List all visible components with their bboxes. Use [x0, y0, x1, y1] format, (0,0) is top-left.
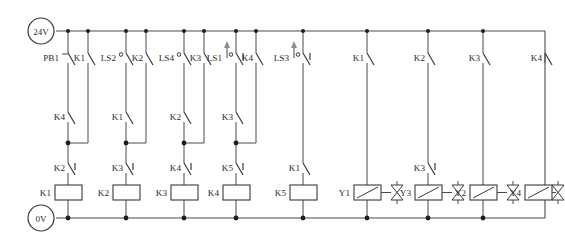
junction-dot	[426, 216, 431, 221]
junction-dot	[124, 216, 129, 221]
junction-dot	[66, 141, 71, 146]
junction-dot	[301, 29, 305, 33]
coil-k5-label: K5	[275, 188, 287, 198]
contact-k2-rung1[interactable]: K2	[54, 163, 75, 175]
junction-dot	[365, 29, 369, 33]
contact-k4-rung9[interactable]: K4	[531, 53, 552, 65]
contact-k4-rung9-label: K4	[531, 53, 543, 63]
contact-pb1-label: PB1	[43, 53, 59, 63]
contact-ls2-label: LS2	[101, 53, 117, 63]
contact-ls4-label: LS4	[159, 53, 175, 63]
terminal-24v: 24V	[28, 18, 54, 44]
junction-dot	[234, 216, 239, 221]
rung-6-group: K1 Y1	[339, 29, 403, 220]
junction-dot	[66, 216, 71, 221]
junction-dot	[182, 216, 187, 221]
coil-k1[interactable]: K1	[40, 185, 82, 200]
contact-k2-rung2-label: K2	[132, 53, 144, 63]
contact-k1-rung2[interactable]: K1	[112, 112, 133, 124]
junction-dot	[144, 29, 148, 33]
contact-k2-rung3-label: K2	[170, 112, 182, 122]
contact-k4-rung1-label: K4	[54, 112, 66, 122]
coil-k4-label: K4	[208, 188, 220, 198]
junction-dot	[481, 29, 485, 33]
contact-k5-rung4[interactable]: K5	[222, 163, 243, 175]
rung-3-group: LS4 K3 K2 K4 K3	[156, 29, 211, 220]
contact-k4-rung3-label: K4	[170, 163, 182, 173]
contact-k1-rung6-label: K1	[353, 53, 365, 63]
coil-k4[interactable]: K4	[208, 185, 250, 200]
solenoid-y4[interactable]: Y4	[510, 185, 552, 200]
terminal-0v-label: 0V	[36, 214, 48, 224]
contact-k4-rung1[interactable]: K4	[54, 112, 75, 124]
solenoid-y3-label: Y3	[400, 188, 412, 198]
contact-ls2[interactable]: LS2	[101, 53, 133, 65]
contact-k2-rung1-label: K2	[54, 163, 66, 173]
solenoid-y2[interactable]: Y2	[455, 185, 497, 200]
contact-k3-rung7-label: K3	[414, 163, 426, 173]
contact-k1-rung6[interactable]: K1	[353, 53, 374, 65]
junction-dot	[182, 141, 187, 146]
contact-pb1[interactable]: PB1	[43, 53, 75, 65]
contact-ls4[interactable]: LS4	[159, 53, 191, 65]
junction-dot	[365, 216, 370, 221]
contact-k3-rung3-label: K3	[190, 53, 202, 63]
rung-2-group: LS2 K2 K1 K3 K2	[98, 29, 153, 220]
contact-k1-rung1[interactable]: K1	[74, 53, 95, 65]
junction-dot	[182, 29, 186, 33]
terminal-24v-label: 24V	[33, 27, 49, 37]
junction-dot	[66, 29, 70, 33]
contact-k2-rung7[interactable]: K2	[414, 53, 435, 65]
solenoid-y1[interactable]: Y1	[339, 185, 381, 200]
coil-k2[interactable]: K2	[98, 185, 140, 200]
contact-k1-rung5[interactable]: K1	[289, 163, 310, 175]
junction-dot	[124, 141, 129, 146]
solenoid-y2-label: Y2	[455, 188, 467, 198]
junction-dot	[426, 29, 430, 33]
contact-k2-rung3[interactable]: K2	[170, 112, 191, 124]
contact-k2-rung2[interactable]: K2	[132, 53, 153, 65]
junction-dot	[124, 29, 128, 33]
terminal-0v: 0V	[28, 205, 54, 231]
indicator-lamp-last	[552, 181, 564, 204]
coil-k1-label: K1	[40, 188, 52, 198]
contact-ls3-label: LS3	[274, 53, 290, 63]
contact-k4-rung4[interactable]: K4	[242, 53, 263, 65]
rung-1-group: PB1 K1 K4 K2 K1	[40, 29, 95, 220]
contact-k2-rung7-label: K2	[414, 53, 426, 63]
contact-ls3[interactable]: LS3	[274, 41, 310, 65]
rung-4-group: LS1 K4 K3 K5 K4	[207, 29, 263, 220]
contact-k3-rung8[interactable]: K3	[469, 53, 490, 65]
junction-dot	[254, 29, 258, 33]
solenoid-y4-label: Y4	[510, 188, 522, 198]
junction-dot	[301, 216, 306, 221]
contact-k5-rung4-label: K5	[222, 163, 234, 173]
ladder-diagram-canvas: 24V 0V PB1 K1 K4	[0, 0, 565, 251]
contact-k1-rung5-label: K1	[289, 163, 301, 173]
contact-k3-rung8-label: K3	[469, 53, 481, 63]
coil-k3-label: K3	[156, 188, 168, 198]
contact-k4-rung3[interactable]: K4	[170, 163, 191, 175]
contact-ls1[interactable]: LS1	[207, 41, 243, 65]
coil-k3[interactable]: K3	[156, 185, 198, 200]
rung-9-group: K4 Y4	[510, 53, 564, 204]
contact-k4-rung4-label: K4	[242, 53, 254, 63]
solenoid-y1-label: Y1	[339, 188, 351, 198]
contact-k1-rung2-label: K1	[112, 112, 124, 122]
junction-dot	[234, 29, 238, 33]
contact-k3-rung7[interactable]: K3	[414, 163, 435, 175]
contact-k3-rung4-label: K3	[222, 112, 234, 122]
coil-k5[interactable]: K5	[275, 185, 317, 200]
solenoid-y3[interactable]: Y3	[400, 185, 442, 200]
junction-dot	[202, 29, 206, 33]
junction-dot	[86, 29, 90, 33]
contact-ls1-label: LS1	[207, 53, 223, 63]
ladder-schematic: 24V 0V PB1 K1 K4	[0, 0, 565, 251]
coil-k2-label: K2	[98, 188, 110, 198]
contact-k3-rung2[interactable]: K3	[112, 163, 133, 175]
contact-k3-rung4[interactable]: K3	[222, 112, 243, 124]
junction-dot	[234, 141, 239, 146]
contact-k1-rung1-label: K1	[74, 53, 86, 63]
rung-5-group: LS3 K1 K5	[274, 29, 317, 220]
junction-dot	[481, 216, 486, 221]
